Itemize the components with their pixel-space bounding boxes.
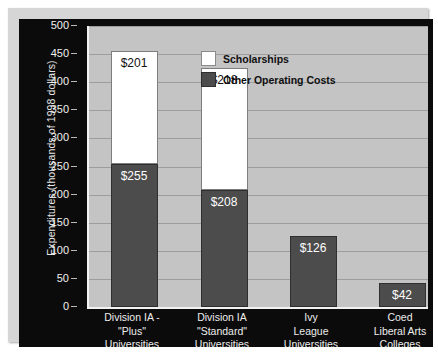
bar-segment-scholarships[interactable]: $201 bbox=[111, 51, 158, 164]
y-axis-tick-mark bbox=[71, 250, 77, 251]
legend-item-1[interactable]: Scholarships bbox=[201, 50, 381, 67]
bar-1[interactable]: $255$201 bbox=[111, 26, 158, 307]
y-axis-ticks: 050100150200250300350400450500 bbox=[33, 19, 77, 347]
y-axis-tick-label: 350 bbox=[29, 104, 69, 115]
bar-segment-other-operating-costs[interactable]: $208 bbox=[201, 190, 248, 307]
legend-label: Other Operating Costs bbox=[223, 74, 336, 86]
bar-value-label: $255 bbox=[112, 170, 157, 182]
y-axis-tick-label: 50 bbox=[29, 273, 69, 284]
y-axis-tick-mark bbox=[71, 81, 77, 82]
y-axis-tick-mark bbox=[71, 166, 77, 167]
x-axis-category-line: Coed bbox=[345, 311, 433, 325]
y-axis-tick-label: 0 bbox=[29, 301, 69, 312]
bar-4[interactable]: $42 bbox=[379, 26, 426, 307]
y-axis-tick-label: 100 bbox=[29, 245, 69, 256]
y-axis-tick-mark bbox=[71, 222, 77, 223]
x-axis-category-label-4: CoedLiberal ArtsColleges bbox=[345, 311, 433, 347]
y-axis-tick-label: 200 bbox=[29, 189, 69, 200]
chart-panel: Expenditures (thousands of 1998 dollars)… bbox=[19, 19, 433, 347]
y-axis-tick-mark bbox=[71, 306, 77, 307]
y-axis-tick-label: 250 bbox=[29, 161, 69, 172]
chart-frame: Expenditures (thousands of 1998 dollars)… bbox=[8, 8, 428, 342]
y-axis-tick-mark bbox=[71, 53, 77, 54]
legend-label: Scholarships bbox=[223, 53, 289, 65]
x-axis-category-line: Liberal Arts bbox=[345, 325, 433, 339]
x-axis-labels: Division IA -"Plus"UniversitiesDivision … bbox=[87, 311, 428, 347]
y-axis-tick-label: 450 bbox=[29, 48, 69, 59]
chart-figure: Expenditures (thousands of 1998 dollars)… bbox=[0, 0, 438, 358]
legend-swatch-icon bbox=[201, 72, 216, 87]
bar-segment-other-operating-costs[interactable]: $126 bbox=[290, 236, 337, 307]
y-axis-tick-label: 500 bbox=[29, 20, 69, 31]
bar-value-label: $126 bbox=[291, 242, 336, 254]
y-axis-tick-mark bbox=[71, 278, 77, 279]
x-axis-category-line: Colleges bbox=[345, 338, 433, 347]
y-axis-tick-label: 400 bbox=[29, 76, 69, 87]
bar-segment-other-operating-costs[interactable]: $255 bbox=[111, 164, 158, 307]
bar-value-label: $208 bbox=[202, 196, 247, 208]
y-axis-tick-label: 150 bbox=[29, 217, 69, 228]
chart-legend: ScholarshipsOther Operating Costs bbox=[201, 50, 381, 92]
legend-item-2[interactable]: Other Operating Costs bbox=[201, 71, 381, 88]
bar-value-label: $42 bbox=[380, 289, 425, 301]
bar-segment-other-operating-costs[interactable]: $42 bbox=[379, 283, 426, 307]
legend-swatch-icon bbox=[201, 51, 216, 66]
y-axis-tick-mark bbox=[71, 194, 77, 195]
y-axis-tick-mark bbox=[71, 109, 77, 110]
bar-value-label: $201 bbox=[112, 57, 157, 69]
y-axis-tick-label: 300 bbox=[29, 132, 69, 143]
y-axis-tick-mark bbox=[71, 25, 77, 26]
y-axis-tick-mark bbox=[71, 137, 77, 138]
